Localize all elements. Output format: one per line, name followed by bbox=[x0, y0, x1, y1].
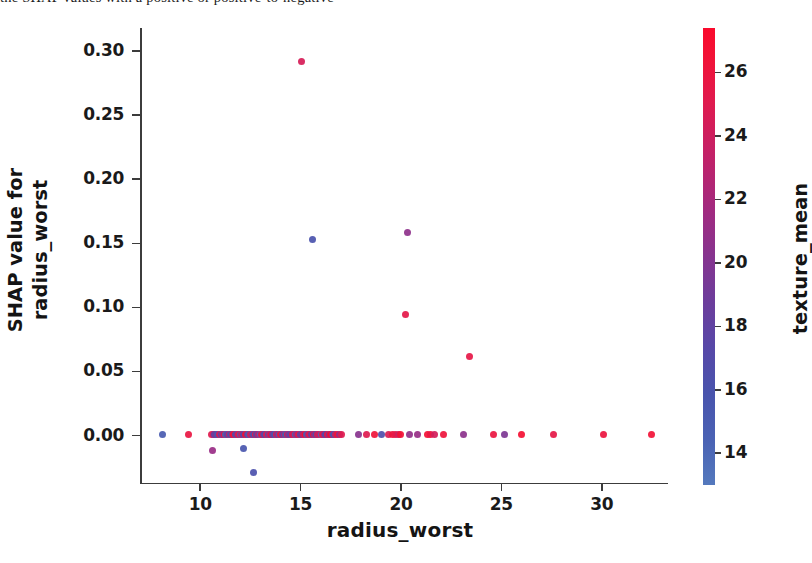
colorbar-tick-label: 14 bbox=[724, 442, 747, 462]
colorbar-tick-label: 26 bbox=[724, 61, 747, 81]
scatter-point bbox=[319, 431, 326, 438]
scatter-point bbox=[260, 431, 267, 438]
y-tick-mark bbox=[132, 178, 140, 180]
scatter-point bbox=[427, 431, 434, 438]
scatter-point bbox=[600, 431, 607, 438]
x-tick-mark bbox=[501, 483, 503, 491]
scatter-point bbox=[271, 431, 278, 438]
scatter-point bbox=[208, 431, 215, 438]
scatter-point bbox=[245, 431, 252, 438]
y-tick-mark bbox=[132, 50, 140, 52]
scatter-point bbox=[336, 431, 343, 438]
x-tick-mark bbox=[199, 483, 201, 491]
scatter-point bbox=[249, 431, 256, 438]
scatter-point bbox=[334, 431, 341, 438]
scatter-point bbox=[229, 431, 236, 438]
scatter-point bbox=[219, 431, 226, 438]
scatter-point bbox=[440, 431, 447, 438]
scatter-point bbox=[402, 311, 409, 318]
scatter-point bbox=[306, 431, 313, 438]
scatter-point bbox=[313, 431, 320, 438]
scatter-point bbox=[322, 431, 329, 438]
x-axis-spine bbox=[140, 483, 668, 485]
scatter-point bbox=[240, 445, 247, 452]
colorbar-tick-mark bbox=[715, 72, 721, 74]
scatter-point bbox=[309, 236, 316, 243]
scatter-point bbox=[284, 431, 291, 438]
scatter-point bbox=[234, 431, 241, 438]
scatter-point bbox=[281, 431, 288, 438]
y-axis-title-line-2: radius_worst bbox=[28, 100, 53, 400]
scatter-point bbox=[318, 431, 325, 438]
colorbar-tick-label: 22 bbox=[724, 188, 747, 208]
scatter-point bbox=[414, 431, 421, 438]
scatter-point bbox=[332, 431, 339, 438]
scatter-point bbox=[314, 431, 321, 438]
scatter-point bbox=[255, 431, 262, 438]
y-tick-mark bbox=[132, 435, 140, 437]
scatter-point bbox=[209, 447, 216, 454]
scatter-point bbox=[303, 431, 310, 438]
scatter-point bbox=[237, 431, 244, 438]
scatter-point bbox=[648, 431, 655, 438]
scatter-point bbox=[298, 431, 305, 438]
x-axis-title: radius_worst bbox=[0, 518, 800, 542]
clipped-body-text: the SHAP values with a positive or posit… bbox=[0, 0, 800, 5]
scatter-point bbox=[397, 431, 404, 438]
scatter-point bbox=[326, 431, 333, 438]
colorbar-gradient bbox=[703, 28, 715, 485]
scatter-point bbox=[244, 431, 251, 438]
scatter-point bbox=[363, 431, 370, 438]
scatter-point bbox=[285, 431, 292, 438]
scatter-point bbox=[257, 431, 264, 438]
scatter-point bbox=[316, 431, 323, 438]
x-tick-mark bbox=[300, 483, 302, 491]
scatter-point bbox=[230, 431, 237, 438]
scatter-point bbox=[214, 431, 221, 438]
x-tick-label: 10 bbox=[189, 494, 212, 514]
scatter-point bbox=[406, 431, 413, 438]
colorbar-tick-label: 24 bbox=[724, 125, 747, 145]
scatter-point bbox=[227, 431, 234, 438]
colorbar-tick-mark bbox=[715, 389, 721, 391]
scatter-point bbox=[253, 431, 260, 438]
scatter-point bbox=[289, 431, 296, 438]
scatter-point bbox=[295, 431, 302, 438]
scatter-point bbox=[242, 431, 249, 438]
x-tick-mark bbox=[601, 483, 603, 491]
scatter-point bbox=[210, 431, 217, 438]
scatter-point bbox=[222, 431, 229, 438]
scatter-point bbox=[330, 431, 337, 438]
scatter-point bbox=[159, 431, 166, 438]
scatter-point bbox=[329, 431, 336, 438]
y-tick-label: 0.15 bbox=[83, 232, 124, 252]
y-tick-mark bbox=[132, 371, 140, 373]
scatter-point bbox=[501, 431, 508, 438]
scatter-point bbox=[308, 431, 315, 438]
scatter-point bbox=[310, 431, 317, 438]
scatter-point bbox=[276, 431, 283, 438]
scatter-point bbox=[518, 431, 525, 438]
colorbar-tick-mark bbox=[715, 326, 721, 328]
scatter-point bbox=[392, 431, 399, 438]
scatter-point bbox=[404, 229, 411, 236]
scatter-point bbox=[226, 431, 233, 438]
scatter-point bbox=[247, 431, 254, 438]
scatter-point bbox=[185, 431, 192, 438]
x-tick-label: 25 bbox=[490, 494, 513, 514]
colorbar-tick-mark bbox=[715, 199, 721, 201]
scatter-point bbox=[293, 431, 300, 438]
scatter-point bbox=[460, 431, 467, 438]
scatter-point bbox=[216, 431, 223, 438]
scatter-point bbox=[466, 353, 473, 360]
scatter-point bbox=[213, 431, 220, 438]
scatter-point bbox=[300, 431, 307, 438]
y-tick-label: 0.30 bbox=[83, 40, 124, 60]
scatter-point bbox=[268, 431, 275, 438]
scatter-point bbox=[211, 431, 218, 438]
x-tick-label: 15 bbox=[289, 494, 312, 514]
scatter-point bbox=[389, 431, 396, 438]
scatter-point bbox=[290, 431, 297, 438]
scatter-point bbox=[274, 431, 281, 438]
